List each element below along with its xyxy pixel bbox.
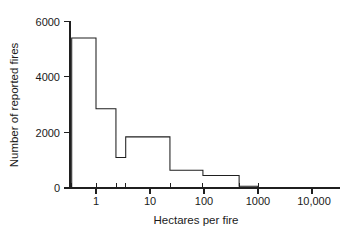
chart-canvas: 6000 4000 2000 0 1 10 100 1000 10,000 bbox=[0, 0, 358, 235]
y-tick-label-6000: 6000 bbox=[36, 16, 60, 28]
x-tick-label-1: 1 bbox=[93, 195, 99, 207]
y-tick-label-0: 0 bbox=[54, 182, 60, 194]
y-tick-label-2000: 2000 bbox=[36, 127, 60, 139]
histogram-outline bbox=[72, 38, 291, 188]
x-tick-label-10000: 10,000 bbox=[297, 195, 331, 207]
y-tick-label-4000: 4000 bbox=[36, 71, 60, 83]
y-axis-title: Number of reported fires bbox=[8, 42, 20, 167]
x-axis-title: Hectares per fire bbox=[153, 214, 238, 226]
x-tick-label-10: 10 bbox=[144, 195, 156, 207]
bin-edge-ticks bbox=[72, 183, 258, 189]
x-tick-label-100: 100 bbox=[195, 195, 213, 207]
y-axis-ticks bbox=[64, 21, 70, 188]
x-tick-label-1000: 1000 bbox=[246, 195, 270, 207]
histogram-figure: 6000 4000 2000 0 1 10 100 1000 10,000 bbox=[0, 0, 358, 235]
x-axis-ticks bbox=[96, 188, 312, 194]
histogram-bars bbox=[72, 38, 291, 188]
